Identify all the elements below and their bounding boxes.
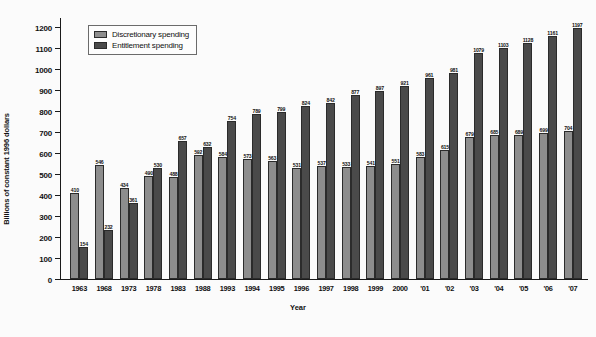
bar-group: 584754 bbox=[215, 18, 240, 279]
bar-group: 6991161 bbox=[536, 18, 561, 279]
bar-value-label: 1128 bbox=[523, 37, 533, 43]
bar-ent: 789 bbox=[252, 114, 261, 279]
bar-ent: 1197 bbox=[573, 28, 582, 279]
bar-group: 546232 bbox=[92, 18, 117, 279]
bar-value-label: 154 bbox=[80, 241, 88, 247]
bar-ent: 530 bbox=[153, 168, 162, 279]
y-tick bbox=[55, 27, 60, 28]
bar-value-label: 434 bbox=[120, 182, 128, 188]
bar-disc: 410 bbox=[70, 193, 79, 279]
bar-group: 410154 bbox=[67, 18, 92, 279]
bar-ent: 799 bbox=[277, 112, 286, 279]
x-tick-label: 1988 bbox=[190, 284, 215, 293]
y-tick bbox=[55, 90, 60, 91]
bar-disc: 546 bbox=[95, 165, 104, 279]
bar-ent: 1079 bbox=[474, 53, 483, 279]
bar-value-label: 679 bbox=[466, 131, 474, 137]
bar-group: 531824 bbox=[289, 18, 314, 279]
bar-disc: 615 bbox=[440, 150, 449, 279]
y-tick-label: 0 bbox=[48, 276, 52, 285]
bar-disc: 699 bbox=[539, 133, 548, 280]
x-tick-label: '03 bbox=[462, 284, 487, 293]
bar-ent: 361 bbox=[129, 203, 138, 279]
bar-group: 592632 bbox=[190, 18, 215, 279]
bar-group: 7041197 bbox=[560, 18, 585, 279]
x-axis-labels: 1963196819731978198319881993199419951996… bbox=[61, 284, 588, 293]
bar-group: 573789 bbox=[240, 18, 265, 279]
bar-group: 6891128 bbox=[511, 18, 536, 279]
x-tick-label: '01 bbox=[412, 284, 437, 293]
y-tick-label: 1200 bbox=[35, 24, 52, 33]
bar-value-label: 361 bbox=[129, 197, 137, 203]
y-tick-label: 200 bbox=[39, 234, 52, 243]
x-tick-label: 1983 bbox=[166, 284, 191, 293]
bar-disc: 434 bbox=[120, 188, 129, 279]
bar-ent: 877 bbox=[351, 95, 360, 279]
chart-container: Billions of constant 1996 dollars 010020… bbox=[0, 0, 596, 337]
bar-value-label: 1079 bbox=[473, 47, 484, 53]
y-tick bbox=[55, 258, 60, 259]
bar-value-label: 799 bbox=[277, 106, 285, 112]
bar-group: 488657 bbox=[166, 18, 191, 279]
x-tick-label: '05 bbox=[511, 284, 536, 293]
y-tick bbox=[55, 48, 60, 49]
y-tick bbox=[55, 279, 60, 280]
bar-ent: 1128 bbox=[523, 43, 532, 279]
bar-value-label: 981 bbox=[450, 67, 458, 73]
bar-ent: 842 bbox=[326, 103, 335, 279]
y-axis-title: Billions of constant 1996 dollars bbox=[2, 113, 11, 225]
x-tick-label: 1968 bbox=[92, 284, 117, 293]
bar-disc: 592 bbox=[194, 155, 203, 279]
x-tick-label: 1973 bbox=[116, 284, 141, 293]
bar-value-label: 530 bbox=[154, 162, 162, 168]
bar-disc: 541 bbox=[366, 166, 375, 279]
bar-value-label: 632 bbox=[203, 141, 211, 147]
bar-group: 434361 bbox=[116, 18, 141, 279]
bar-group: 6791079 bbox=[462, 18, 487, 279]
bar-disc: 679 bbox=[465, 137, 474, 279]
x-tick-label: 1978 bbox=[141, 284, 166, 293]
x-tick-label: 1997 bbox=[314, 284, 339, 293]
bar-value-label: 531 bbox=[293, 162, 301, 168]
bar-value-label: 921 bbox=[401, 80, 409, 86]
y-tick bbox=[55, 132, 60, 133]
bar-value-label: 897 bbox=[376, 85, 384, 91]
bar-group: 533877 bbox=[338, 18, 363, 279]
bar-disc: 689 bbox=[514, 135, 523, 279]
y-tick bbox=[55, 69, 60, 70]
x-tick-label: 1996 bbox=[289, 284, 314, 293]
y-tick-label: 1100 bbox=[35, 45, 52, 54]
y-tick-label: 1000 bbox=[35, 66, 52, 75]
bar-disc: 573 bbox=[243, 159, 252, 279]
bar-value-label: 615 bbox=[441, 144, 449, 150]
bar-ent: 657 bbox=[178, 141, 187, 279]
x-tick-label: 1963 bbox=[67, 284, 92, 293]
bar-value-label: 657 bbox=[178, 135, 186, 141]
x-tick-label: '06 bbox=[536, 284, 561, 293]
plot-area: 0100200300400500600700800900100011001200… bbox=[60, 18, 588, 280]
x-tick-label: 1994 bbox=[240, 284, 265, 293]
bar-value-label: 584 bbox=[219, 151, 227, 157]
bar-value-label: 490 bbox=[145, 170, 153, 176]
bar-disc: 583 bbox=[416, 157, 425, 279]
y-tick-label: 400 bbox=[39, 192, 52, 201]
bar-value-label: 704 bbox=[564, 125, 572, 131]
x-tick-label: 1999 bbox=[363, 284, 388, 293]
bar-value-label: 1161 bbox=[547, 30, 557, 36]
bar-value-label: 592 bbox=[194, 149, 202, 155]
y-tick-label: 600 bbox=[39, 150, 52, 159]
bar-value-label: 573 bbox=[244, 153, 252, 159]
bar-ent: 1161 bbox=[548, 36, 557, 279]
x-tick-label: 1995 bbox=[264, 284, 289, 293]
bar-ent: 1103 bbox=[499, 48, 508, 279]
bar-group: 490530 bbox=[141, 18, 166, 279]
bar-group: 537842 bbox=[314, 18, 339, 279]
x-tick-label: '04 bbox=[486, 284, 511, 293]
y-tick bbox=[55, 111, 60, 112]
y-tick bbox=[55, 216, 60, 217]
y-tick-label: 700 bbox=[39, 129, 52, 138]
bar-value-label: 551 bbox=[392, 158, 400, 164]
bar-ent: 754 bbox=[227, 121, 236, 279]
bar-disc: 531 bbox=[292, 168, 301, 279]
bar-value-label: 824 bbox=[302, 100, 310, 106]
